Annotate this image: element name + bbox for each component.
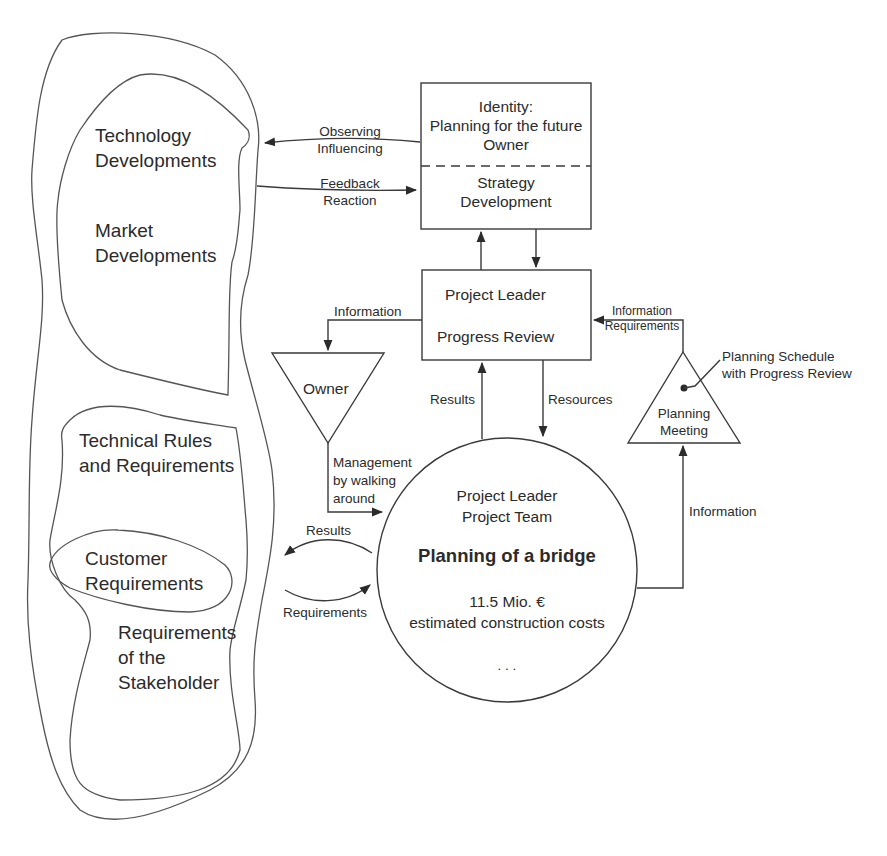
circle-project-leader: Project Leader	[377, 485, 637, 506]
feedback-text: Feedback	[290, 175, 410, 192]
technical-rules-label: Technical Rules and Requirements	[79, 428, 234, 478]
technical-rules-line2: and Requirements	[79, 453, 234, 478]
stakeholder-line2: of the	[118, 645, 236, 670]
owner-triangle-shape	[272, 353, 384, 443]
owner-label: Owner	[303, 379, 349, 398]
info-req-line1: Information	[597, 304, 687, 319]
market-line1: Market	[95, 218, 216, 243]
circle-project-team: Project Team	[377, 506, 637, 527]
resources-down-label: Resources	[548, 391, 613, 408]
circle-cost-text: 11.5 Mio. € estimated construction costs	[377, 591, 637, 633]
technology-developments-label: Technology Developments	[95, 123, 216, 173]
technology-line2: Developments	[95, 148, 216, 173]
circle-cost-amount: 11.5 Mio. €	[377, 591, 637, 612]
circle-cost-desc: estimated construction costs	[377, 612, 637, 633]
strategy-line2: Development	[421, 192, 591, 211]
callout-line2: with Progress Review	[722, 365, 852, 382]
project-leader-text: Project Leader	[445, 285, 546, 304]
stakeholder-line1: Requirements	[118, 620, 236, 645]
circle-ellipsis: . . .	[377, 657, 637, 674]
callout-line1: Planning Schedule	[722, 348, 852, 365]
influencing-text: Influencing	[290, 140, 410, 157]
market-line2: Developments	[95, 243, 216, 268]
information-to-owner-label: Information	[334, 303, 402, 320]
feedback-reaction-label: Feedback Reaction	[290, 175, 410, 209]
observing-influencing-label: Observing Influencing	[290, 123, 410, 157]
planning-meeting-label: Planning Meeting	[640, 405, 728, 439]
observing-text: Observing	[290, 123, 410, 140]
customer-requirements-label: Customer Requirements	[85, 546, 203, 596]
technical-rules-line1: Technical Rules	[79, 428, 234, 453]
customer-line1: Customer	[85, 546, 203, 571]
identity-box-lower: Strategy Development	[421, 173, 591, 211]
identity-title: Identity:	[421, 97, 591, 116]
stakeholder-requirements-label: Requirements of the Stakeholder	[118, 620, 236, 695]
progress-review-text: Progress Review	[437, 327, 554, 346]
customer-line2: Requirements	[85, 571, 203, 596]
project-environment-diagram: Technology Developments Market Developme…	[0, 0, 887, 856]
info-req-line2: Requirements	[597, 319, 687, 334]
identity-owner: Owner	[421, 135, 591, 154]
management-line1: Management	[333, 454, 412, 472]
identity-planning-future: Planning for the future	[421, 116, 591, 135]
circle-title: Planning of a bridge	[377, 545, 637, 567]
results-left-label: Results	[306, 522, 351, 539]
stakeholder-line3: Stakeholder	[118, 670, 236, 695]
information-up-label: Information	[689, 503, 757, 520]
planning-meeting-line1: Planning	[640, 405, 728, 422]
results-up-label: Results	[430, 391, 475, 408]
technology-line1: Technology	[95, 123, 216, 148]
project-leader-box-border	[422, 270, 591, 360]
planning-meeting-line2: Meeting	[640, 422, 728, 439]
reaction-text: Reaction	[290, 192, 410, 209]
circle-team-text: Project Leader Project Team	[377, 485, 637, 527]
planning-schedule-callout: Planning Schedule with Progress Review	[722, 348, 852, 382]
market-developments-label: Market Developments	[95, 218, 216, 268]
strategy-line1: Strategy	[421, 173, 591, 192]
identity-box-upper: Identity: Planning for the future Owner	[421, 97, 591, 154]
info-requirements-label: Information Requirements	[597, 304, 687, 334]
requirements-right-label: Requirements	[283, 604, 367, 621]
